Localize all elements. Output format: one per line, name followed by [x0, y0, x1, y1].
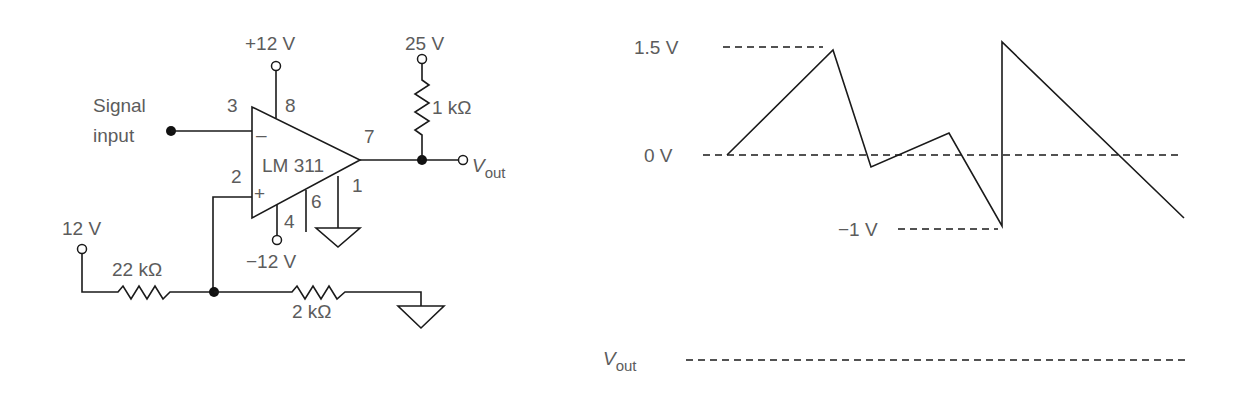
pullup-supply-label: 25 V: [405, 33, 444, 54]
level-zero-label: 0 V: [644, 145, 673, 166]
pullup-supply-terminal: [418, 55, 427, 64]
negative-supply-label: −12 V: [246, 251, 297, 272]
divider-top-resistor-label: 22 kΩ: [112, 259, 162, 280]
level-high-label: 1.5 V: [634, 37, 679, 58]
noninverting-input-symbol: +: [254, 183, 265, 204]
negative-supply-terminal: [273, 236, 282, 245]
reference-supply-label: 12 V: [62, 218, 101, 239]
inverting-input-symbol: –: [256, 124, 267, 145]
pin-4-label: 4: [284, 211, 295, 232]
level-low-label: −1 V: [838, 219, 878, 240]
pin-6-label: 6: [311, 191, 322, 212]
comparator-figure: LM 311 – + 3 8 2 7 1 4 6 +12 V Signal in…: [0, 0, 1248, 393]
signal-input-waveform: [727, 42, 1184, 226]
positive-supply-terminal: [272, 62, 281, 71]
comparator-circuit: LM 311 – + 3 8 2 7 1 4 6 +12 V Signal in…: [62, 33, 506, 328]
waveform-plot: 1.5 V 0 V −1 V Vout: [603, 37, 1190, 374]
signal-input-label-line1: Signal: [93, 95, 146, 116]
ground-icon: [316, 228, 360, 247]
pullup-resistor-icon: [415, 64, 429, 161]
pin-7-label: 7: [364, 126, 375, 147]
pin-2-wire: [213, 197, 252, 292]
pin-3-label: 3: [227, 95, 238, 116]
pin-8-label: 8: [285, 95, 296, 116]
positive-supply-label: +12 V: [245, 33, 296, 54]
divider-bottom-resistor-label: 2 kΩ: [292, 301, 332, 322]
signal-input-label-line2: input: [93, 125, 135, 146]
output-terminal: [459, 156, 468, 165]
pullup-resistor-label: 1 kΩ: [432, 97, 472, 118]
vout-axis-label: Vout: [603, 348, 637, 374]
ground-icon: [398, 306, 444, 328]
chip-label: LM 311: [262, 155, 324, 176]
pin-2-label: 2: [231, 166, 242, 187]
reference-supply-terminal: [78, 245, 87, 254]
output-label: Vout: [472, 155, 506, 181]
pin-1-label: 1: [352, 175, 363, 196]
